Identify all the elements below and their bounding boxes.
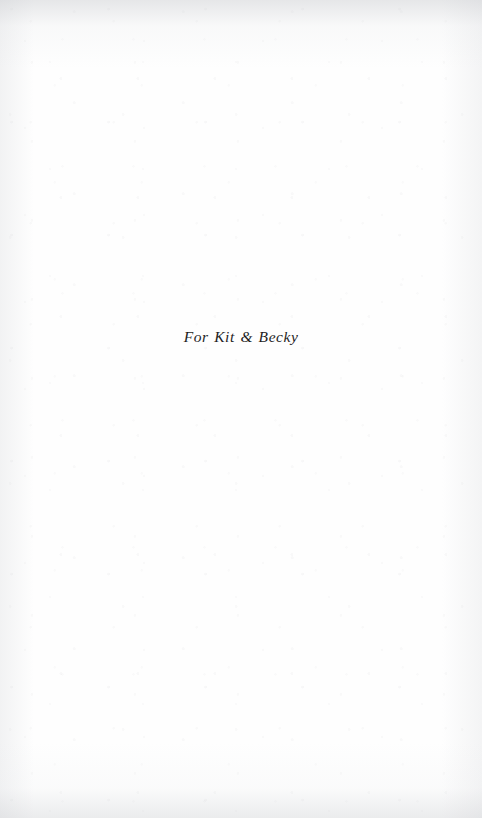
dedication-block: For Kit & Becky xyxy=(0,327,482,347)
dedication-page: For Kit & Becky xyxy=(0,0,482,818)
paper-background xyxy=(0,0,482,818)
dedication-text: For Kit & Becky xyxy=(184,327,299,346)
